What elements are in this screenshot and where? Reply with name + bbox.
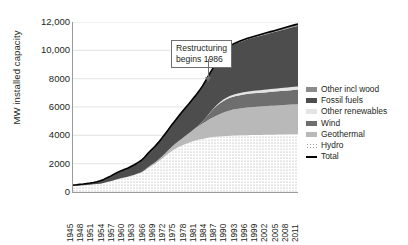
chart-legend: Other incl woodFossil fuelsOther renewab… [306, 84, 406, 162]
x-axis-tick: 1957 [108, 224, 116, 242]
annotation-restructuring: Restructuring begins 1986 [171, 40, 232, 68]
legend-swatch-icon [306, 143, 317, 148]
legend-item: Geothermal [306, 129, 406, 140]
y-axis-tick-labels: 12,00010,00080006000400020000 [22, 0, 70, 245]
x-axis-tick: 1978 [180, 224, 188, 242]
y-axis-tick: 0 [24, 187, 70, 196]
y-axis-tick: 8000 [24, 74, 70, 83]
x-axis-tick: 1954 [98, 224, 106, 242]
legend-swatch-icon [306, 121, 317, 126]
x-axis-tick: 1963 [128, 224, 136, 242]
x-axis-tick: 1981 [190, 224, 198, 242]
x-axis-tick: 1945 [67, 224, 75, 242]
annotation-line-2: begins 1986 [176, 54, 227, 65]
legend-swatch-icon [306, 156, 317, 158]
x-axis-tick: 2002 [261, 224, 269, 242]
x-axis-tick: 1993 [231, 224, 239, 242]
legend-label: Geothermal [321, 130, 365, 139]
legend-item: Hydro [306, 140, 406, 151]
legend-item: Other incl wood [306, 84, 406, 95]
y-axis-tick: 10,000 [24, 45, 70, 54]
annotation-leader-line [208, 59, 209, 79]
y-axis-title: MW installed capacity [11, 8, 22, 148]
x-axis-tick: 2008 [282, 224, 290, 242]
y-axis-tick: 2000 [24, 159, 70, 168]
chart-figure: MW installed capacity 12,00010,000800060… [0, 0, 408, 245]
x-axis-tick: 1984 [200, 224, 208, 242]
annotation-arrow-icon [205, 77, 211, 82]
legend-label: Total [321, 152, 339, 161]
y-axis-tick: 4000 [24, 130, 70, 139]
y-axis-tick: 6000 [24, 102, 70, 111]
x-axis-tick: 1975 [169, 224, 177, 242]
legend-label: Fossil fuels [321, 96, 363, 105]
y-axis-tick: 12,000 [24, 17, 70, 26]
legend-item: Other renewables [306, 106, 406, 117]
x-axis-tick: 1951 [87, 224, 95, 242]
x-axis-tick: 1966 [139, 224, 147, 242]
x-axis-tick: 1960 [118, 224, 126, 242]
x-axis-tick: 2011 [292, 224, 300, 242]
legend-swatch-icon [306, 109, 317, 114]
legend-swatch-icon [306, 87, 317, 92]
legend-label: Wind [321, 119, 340, 128]
annotation-line-1: Restructuring [176, 43, 227, 54]
legend-label: Other incl wood [321, 85, 379, 94]
legend-item: Wind [306, 118, 406, 129]
x-axis-tick: 1996 [241, 224, 249, 242]
x-axis-tick: 1948 [77, 224, 85, 242]
legend-label: Other renewables [321, 107, 387, 116]
legend-swatch-icon [306, 98, 317, 103]
legend-label: Hydro [321, 141, 343, 150]
legend-item: Fossil fuels [306, 95, 406, 106]
x-axis-tick: 1987 [210, 224, 218, 242]
x-axis-tick: 2005 [272, 224, 280, 242]
legend-swatch-icon [306, 132, 317, 137]
x-axis-tick: 1972 [159, 224, 167, 242]
x-axis-tick-labels: 1945194819511954195719601963196619691972… [72, 194, 298, 242]
x-axis-tick: 1969 [149, 224, 157, 242]
x-axis-tick: 1999 [251, 224, 259, 242]
x-axis-tick: 1990 [220, 224, 228, 242]
legend-item: Total [306, 151, 406, 162]
